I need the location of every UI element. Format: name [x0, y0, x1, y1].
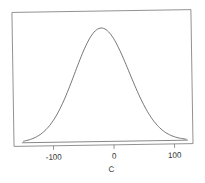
x-tick-label: 100 [168, 151, 182, 160]
x-axis-label: C [108, 165, 114, 174]
plot-frame [12, 10, 193, 147]
x-axis: -1000100 [46, 144, 182, 162]
x-tick-label: 0 [112, 152, 117, 161]
baseline [22, 140, 188, 143]
x-tick-label: -100 [46, 153, 63, 162]
chart: -1000100 C [0, 0, 205, 183]
density-curve [21, 27, 186, 142]
